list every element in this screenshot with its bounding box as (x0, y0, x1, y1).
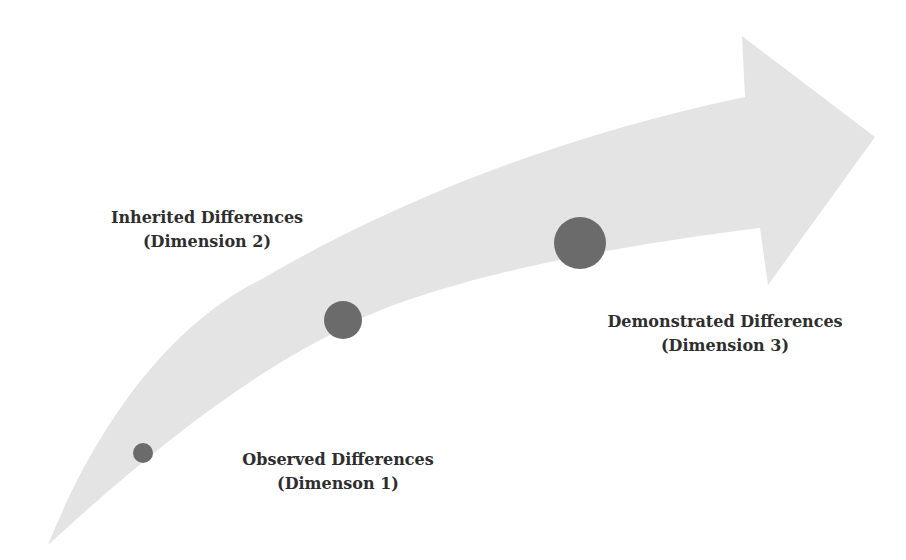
stage-1-label: Observed Differences (Dimenson 1) (220, 448, 456, 496)
stage-2-label: Inherited Differences (Dimension 2) (104, 206, 310, 254)
stage-2-title: Inherited Differences (104, 206, 310, 230)
stage-3-title: Demonstrated Differences (580, 310, 870, 334)
stage-1-subtitle: (Dimenson 1) (220, 472, 456, 496)
stage-2-dot (324, 301, 362, 339)
stage-3-subtitle: (Dimension 3) (580, 334, 870, 358)
stage-3-label: Demonstrated Differences (Dimension 3) (580, 310, 870, 358)
curved-arrow-shape (48, 36, 875, 545)
stage-2-subtitle: (Dimension 2) (104, 230, 310, 254)
stage-1-title: Observed Differences (220, 448, 456, 472)
stage-1-dot (133, 443, 153, 463)
stage-3-dot (554, 217, 606, 269)
